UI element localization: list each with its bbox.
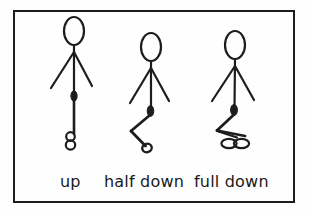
head-icon — [225, 31, 245, 59]
diagram-page: up half down full down — [0, 0, 312, 211]
arm-left-line — [212, 66, 235, 101]
figure-half-down — [130, 33, 169, 154]
arm-right-line — [235, 66, 254, 100]
figure-label-half-down: half down — [104, 172, 184, 191]
arm-left-line — [51, 52, 74, 88]
head-icon — [141, 33, 161, 61]
figure-up — [51, 17, 92, 150]
shin-line — [131, 131, 146, 146]
figure-full-down — [212, 31, 254, 148]
thigh-line — [131, 115, 150, 131]
arm-right-line — [151, 68, 169, 101]
arm-left-line — [130, 68, 151, 103]
head-icon — [64, 17, 84, 45]
figure-label-full-down: full down — [194, 172, 269, 191]
arm-right-line — [74, 52, 92, 86]
thigh-line — [217, 115, 234, 131]
figure-label-up: up — [60, 172, 81, 191]
